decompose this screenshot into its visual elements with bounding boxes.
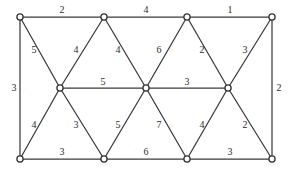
graph-edge: [228, 88, 272, 159]
edge-weight-label: 6: [157, 45, 162, 55]
graph-edge: [20, 88, 60, 159]
edge-weight-label: 3: [12, 83, 17, 93]
edge-weight-label: 4: [144, 5, 149, 15]
graph-vertex: [269, 156, 275, 162]
vertices-group: [17, 14, 275, 162]
weighted-graph-diagram: 2413254462353435742363: [0, 0, 293, 176]
graph-vertex: [17, 14, 23, 20]
edge-weight-label: 3: [74, 120, 79, 130]
graph-edge: [60, 88, 104, 159]
edge-weight-label: 2: [277, 83, 282, 93]
graph-edge: [187, 88, 228, 159]
edge-weight-label: 5: [116, 120, 121, 130]
graph-edge: [146, 88, 187, 159]
edge-weight-label: 7: [157, 120, 162, 130]
edge-weight-label: 4: [74, 45, 79, 55]
graph-edge: [104, 17, 146, 88]
edge-weight-label: 4: [200, 120, 205, 130]
graph-edge: [60, 17, 104, 88]
graph-vertex: [101, 14, 107, 20]
graph-vertex: [184, 14, 190, 20]
graph-vertex: [269, 14, 275, 20]
graph-edge: [187, 17, 228, 88]
graph-vertex: [17, 156, 23, 162]
graph-edge: [228, 17, 272, 88]
graph-edge: [104, 88, 146, 159]
edge-weight-label: 2: [60, 5, 65, 15]
edge-weight-label: 5: [101, 77, 106, 87]
edge-weight-label: 2: [243, 120, 248, 130]
graph-vertex: [225, 85, 231, 91]
edge-weight-label: 5: [32, 45, 37, 55]
edge-weight-label: 3: [60, 147, 65, 157]
graph-vertex: [143, 85, 149, 91]
graph-vertex: [184, 156, 190, 162]
edge-weight-label: 1: [228, 5, 233, 15]
edge-weight-label: 6: [144, 147, 149, 157]
edge-weight-label: 2: [200, 45, 205, 55]
graph-vertex: [101, 156, 107, 162]
edge-weight-label: 4: [116, 45, 121, 55]
graph-edge: [20, 17, 60, 88]
edge-weight-label: 3: [185, 77, 190, 87]
graph-edge: [146, 17, 187, 88]
edge-weight-label: 4: [32, 120, 37, 130]
edge-weight-label: 3: [243, 45, 248, 55]
graph-vertex: [57, 85, 63, 91]
edge-weight-label: 3: [228, 147, 233, 157]
